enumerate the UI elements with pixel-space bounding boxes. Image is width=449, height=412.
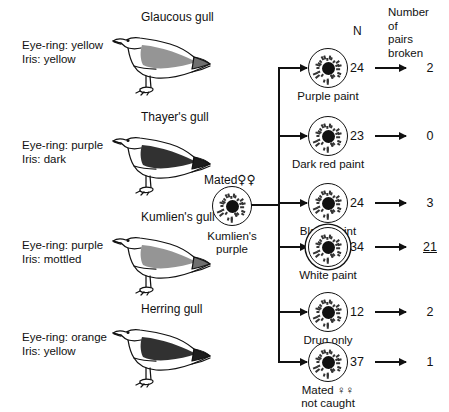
species-traits-herring-gull: Eye-ring: orangeIris: yellow (22, 330, 107, 358)
result-arrow-dark-red-paint (375, 135, 406, 137)
source-label-line1: Kumlien's (182, 230, 282, 243)
n-value-white-paint: 34 (350, 240, 372, 254)
n-value-purple-paint: 24 (350, 61, 372, 75)
treatment-label-line2-mated-not-caught: not caught (278, 397, 378, 410)
pupil (322, 241, 335, 254)
eye-ring-text-herring-gull: Eye-ring: orange (22, 330, 107, 344)
species-traits-thayer-s-gull: Eye-ring: purpleIris: dark (22, 138, 103, 166)
result-arrow-white-paint (375, 246, 406, 248)
pairs-broken-value-purple-paint: 2 (418, 61, 442, 75)
treatment-eye-node-purple-paint (308, 48, 348, 88)
treatment-eye-node-black-paint (308, 183, 348, 223)
species-traits-kumlien-s-gull: Eye-ring: purpleIris: mottled (22, 238, 103, 266)
treatment-label-line1-white-paint: White paint (278, 269, 378, 282)
eye-ring-text-thayer-s-gull: Eye-ring: purple (22, 138, 103, 152)
pairs-broken-value-dark-red-paint: 0 (418, 129, 442, 143)
pupil (226, 200, 239, 213)
treatment-eye-node-drug-only (308, 292, 348, 332)
species-panel-glaucous-gull: Glaucous gullEye-ring: yellowIris: yello… (0, 8, 240, 103)
source-label-line2: purple (182, 243, 282, 256)
branch-connector-mated-not-caught (278, 361, 307, 363)
treatment-label-white-paint: White paint (278, 269, 378, 282)
branch-connector-purple-paint (278, 67, 307, 69)
mated-source-word: Mated (204, 173, 237, 187)
pupil (322, 306, 335, 319)
source-eye-node (212, 186, 252, 226)
species-traits-glaucous-gull: Eye-ring: yellowIris: yellow (22, 38, 103, 66)
pupil (322, 356, 335, 369)
treatment-label-dark-red-paint: Dark red paint (278, 158, 378, 171)
treatment-label-line1-mated-not-caught: Mated ♀♀ (278, 384, 378, 397)
treatment-eye-node-mated-not-caught (308, 342, 348, 382)
treatment-label-purple-paint: Purple paint (278, 90, 378, 103)
result-arrow-drug-only (375, 311, 406, 313)
tree-trunk-line (278, 68, 280, 362)
pairs-broken-value-white-paint: 21 (418, 240, 442, 254)
treatment-eye-node-dark-red-paint (308, 116, 348, 156)
result-arrow-mated-not-caught (375, 361, 406, 363)
result-arrow-black-paint (375, 202, 406, 204)
eye-ring-text-kumlien-s-gull: Eye-ring: purple (22, 238, 103, 252)
species-panel-thayer-s-gull: Thayer's gullEye-ring: purpleIris: dark (0, 108, 240, 203)
source-eye-label: Kumlien's purple (182, 230, 282, 256)
female-symbols-source: ♀♀ (237, 172, 255, 187)
gull-illustration-glaucous-gull (96, 18, 216, 100)
result-arrow-purple-paint (375, 67, 406, 69)
branch-connector-drug-only (278, 311, 307, 313)
column-header-pairs-broken: Number of pairs broken (388, 6, 429, 60)
branch-connector-black-paint (278, 202, 307, 204)
iris-text-thayer-s-gull: Iris: dark (22, 152, 103, 166)
source-stem-connector (251, 204, 279, 206)
treatment-label-line1-dark-red-paint: Dark red paint (278, 158, 378, 171)
eye-ring-text-glaucous-gull: Eye-ring: yellow (22, 38, 103, 52)
branch-connector-white-paint (278, 246, 307, 248)
gull-experiment-figure: Glaucous gullEye-ring: yellowIris: yello… (0, 0, 449, 412)
iris-text-kumlien-s-gull: Iris: mottled (22, 252, 103, 266)
broken-header-line-1: Number (388, 6, 429, 20)
mated-source-caption: Mated♀♀ (204, 172, 256, 187)
treatment-label-mated-not-caught: Mated ♀♀not caught (278, 384, 378, 410)
iris-text-herring-gull: Iris: yellow (22, 344, 107, 358)
pairs-broken-value-drug-only: 2 (418, 305, 442, 319)
pupil (322, 62, 335, 75)
n-value-black-paint: 24 (350, 196, 372, 210)
broken-header-line-2: of (388, 20, 429, 34)
n-value-dark-red-paint: 23 (350, 129, 372, 143)
treatment-eye-node-white-paint (308, 227, 348, 267)
pairs-broken-value-black-paint: 3 (418, 196, 442, 210)
species-panel-herring-gull: Herring gullEye-ring: orangeIris: yellow (0, 300, 240, 395)
n-value-mated-not-caught: 37 (350, 355, 372, 369)
iris-text-glaucous-gull: Iris: yellow (22, 52, 103, 66)
gull-illustration-thayer-s-gull (96, 118, 216, 200)
broken-header-line-4: broken (388, 47, 429, 61)
pupil (322, 130, 335, 143)
pairs-broken-value-mated-not-caught: 1 (418, 355, 442, 369)
gull-illustration-herring-gull (96, 310, 216, 392)
column-header-n: N (353, 24, 362, 38)
branch-connector-dark-red-paint (278, 135, 307, 137)
treatment-label-line1-purple-paint: Purple paint (278, 90, 378, 103)
broken-header-line-3: pairs (388, 33, 429, 47)
pupil (322, 197, 335, 210)
n-value-drug-only: 12 (350, 305, 372, 319)
